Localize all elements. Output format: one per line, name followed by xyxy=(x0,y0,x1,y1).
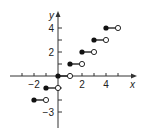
open-point-icon xyxy=(91,49,96,54)
closed-point-icon xyxy=(103,25,108,30)
x-tick-label: 4 xyxy=(103,79,109,90)
step-segment xyxy=(91,37,108,42)
step-function-chart: −22442−3 x y xyxy=(0,0,146,133)
y-axis-label: y xyxy=(48,10,55,21)
closed-point-icon xyxy=(79,49,84,54)
open-point-icon xyxy=(103,37,108,42)
closed-point-icon xyxy=(43,85,48,90)
x-tick-label: 2 xyxy=(79,79,85,90)
closed-point-icon xyxy=(67,61,72,66)
step-segment xyxy=(31,97,48,102)
step-segment xyxy=(67,61,84,66)
open-point-icon xyxy=(43,97,48,102)
y-tick-label: 2 xyxy=(48,47,54,58)
step-segments xyxy=(31,25,120,102)
y-axis-arrow-icon xyxy=(56,11,61,17)
tick-labels: −22442−3 xyxy=(28,23,109,118)
x-axis-label: x xyxy=(129,79,136,90)
step-segment xyxy=(43,85,60,90)
open-point-icon xyxy=(67,73,72,78)
step-segment xyxy=(55,73,72,78)
closed-point-icon xyxy=(55,73,60,78)
y-tick-label: 4 xyxy=(48,23,54,34)
open-point-icon xyxy=(55,85,60,90)
open-point-icon xyxy=(79,61,84,66)
y-tick-label: −3 xyxy=(43,107,55,118)
open-point-icon xyxy=(115,25,120,30)
x-tick-label: −2 xyxy=(28,79,40,90)
x-axis-arrow-icon xyxy=(131,74,137,79)
step-segment xyxy=(103,25,120,30)
closed-point-icon xyxy=(91,37,96,42)
closed-point-icon xyxy=(31,97,36,102)
step-segment xyxy=(79,49,96,54)
